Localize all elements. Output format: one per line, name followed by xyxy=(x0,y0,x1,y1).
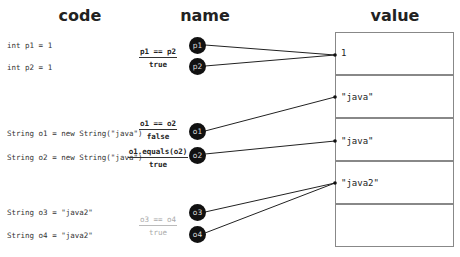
node-o1: o1 xyxy=(189,123,206,140)
ref-dot xyxy=(333,95,337,99)
node-p1: p1 xyxy=(189,37,206,54)
ref-line-p2 xyxy=(205,55,335,66)
ref-dot xyxy=(333,53,337,57)
ref-line-o2 xyxy=(205,141,335,154)
reference-lines xyxy=(0,0,460,257)
node-o3: o3 xyxy=(189,204,206,221)
node-o4: o4 xyxy=(189,226,206,243)
ref-dot xyxy=(333,139,337,143)
ref-line-o1 xyxy=(205,97,335,131)
node-p2: p2 xyxy=(189,58,206,75)
ref-dot xyxy=(333,181,337,185)
ref-line-p1 xyxy=(205,45,335,55)
node-o2: o2 xyxy=(189,147,206,164)
